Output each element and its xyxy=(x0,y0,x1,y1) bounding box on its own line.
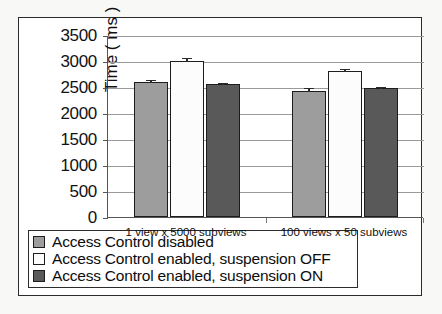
bar-series-0-cat-0[interactable] xyxy=(134,82,168,217)
bar-series-1-cat-1[interactable] xyxy=(328,71,362,217)
y-axis-tick xyxy=(103,166,108,167)
legend-label-series-1: Access Control enabled, suspension OFF xyxy=(52,251,330,267)
y-axis-tick-label: 0 xyxy=(27,209,97,226)
y-axis-tick-label: 1000 xyxy=(27,157,97,174)
bar-series-2-cat-1[interactable] xyxy=(364,88,398,217)
chart-legend: Access Control disabled Access Control e… xyxy=(28,230,358,288)
y-axis-tick xyxy=(103,62,108,63)
x-axis-category-label: 100 views x 50 subviews xyxy=(265,226,423,238)
bar-series-2-cat-0[interactable] xyxy=(206,84,240,217)
y-axis-tick-label: 2500 xyxy=(27,79,97,96)
y-axis-tick-label: 3000 xyxy=(27,53,97,70)
y-axis-tick-label: 2000 xyxy=(27,105,97,122)
y-axis-tick-label: 500 xyxy=(27,183,97,200)
gridline xyxy=(108,36,424,37)
y-axis-tick xyxy=(103,36,108,37)
y-axis-tick xyxy=(103,140,108,141)
error-bar-cap-series-2-cat-0 xyxy=(218,83,228,84)
legend-label-series-2: Access Control enabled, suspension ON xyxy=(52,268,323,284)
error-bar-cap-series-2-cat-1 xyxy=(376,87,386,88)
legend-swatch-series-2 xyxy=(33,270,45,282)
y-axis-tick xyxy=(103,114,108,115)
y-axis-tick-label: 3500 xyxy=(27,27,97,44)
y-axis-tick-label: 1500 xyxy=(27,131,97,148)
x-axis-category-label: 1 view x 5000 subviews xyxy=(107,226,265,238)
error-bar-cap-series-0-cat-1 xyxy=(304,88,314,89)
scan-ghost-top xyxy=(10,0,14,15)
y-axis-tick xyxy=(103,88,108,89)
x-axis-tick xyxy=(266,218,267,223)
error-bar-cap-series-1-cat-1 xyxy=(340,69,350,70)
bar-series-1-cat-0[interactable] xyxy=(170,61,204,217)
y-axis-tick xyxy=(103,218,108,219)
chart-figure: Time ( ms ) Access Control disabled Acce… xyxy=(18,17,422,296)
legend-swatch-series-0 xyxy=(33,236,45,248)
y-axis-tick xyxy=(103,192,108,193)
bar-series-0-cat-1[interactable] xyxy=(292,91,326,217)
error-bar-cap-series-1-cat-0 xyxy=(182,58,192,59)
legend-swatch-series-1 xyxy=(33,253,45,265)
gridline xyxy=(108,62,424,63)
x-axis-end-tick xyxy=(423,218,424,223)
plot-area: Time ( ms ) xyxy=(107,36,423,218)
scan-ghost-bottom xyxy=(120,299,124,314)
error-bar-cap-series-0-cat-0 xyxy=(146,80,156,81)
legend-item[interactable]: Access Control enabled, suspension OFF xyxy=(33,250,354,267)
legend-item[interactable]: Access Control enabled, suspension ON xyxy=(33,267,354,284)
y-axis-title: Time ( ms ) xyxy=(102,7,122,92)
